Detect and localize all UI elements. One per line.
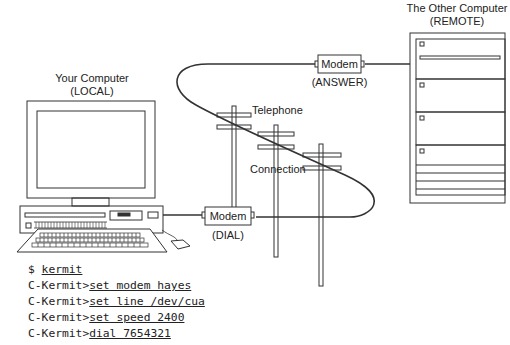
local-computer-subtitle: (LOCAL) xyxy=(70,85,113,97)
terminal-line: C-Kermit>set line /dev/cua xyxy=(28,294,205,310)
telephone-label: Telephone xyxy=(252,104,303,116)
terminal-line: C-Kermit>set modem hayes xyxy=(28,278,205,294)
terminal-line: C-Kermit>set speed 2400 xyxy=(28,310,205,326)
telephone-pole-2 xyxy=(258,125,294,257)
telephone-pole-1 xyxy=(217,106,251,219)
terminal-command: set line /dev/cua xyxy=(89,295,205,308)
remote-computer-title: The Other Computer xyxy=(407,2,508,14)
vent-grille xyxy=(36,222,105,228)
terminal-command: dial 7654321 xyxy=(89,327,171,340)
connection-label: Connection xyxy=(250,163,306,175)
terminal-prompt: C-Kermit> xyxy=(28,327,89,340)
terminal-prompt: $ xyxy=(28,263,42,276)
terminal-prompt: C-Kermit> xyxy=(28,295,89,308)
terminal-prompt: C-Kermit> xyxy=(28,311,89,324)
terminal-session: $ kermit C-Kermit>set modem hayes C-Kerm… xyxy=(28,262,205,342)
modem-remote-mode: (ANSWER) xyxy=(312,76,368,88)
local-computer-title: Your Computer xyxy=(55,72,129,84)
terminal-command: set speed 2400 xyxy=(89,311,184,324)
monitor xyxy=(27,101,155,198)
modem-remote-label: Modem xyxy=(321,58,358,70)
modem-local-label: Modem xyxy=(210,210,247,222)
terminal-command: set modem hayes xyxy=(89,279,191,292)
mouse xyxy=(171,240,190,249)
local-computer xyxy=(17,101,190,252)
labels: Your Computer (LOCAL) The Other Computer… xyxy=(55,2,508,241)
modem-local-mode: (DIAL) xyxy=(212,229,244,241)
terminal-command: kermit xyxy=(42,263,83,276)
terminal-line: C-Kermit>dial 7654321 xyxy=(28,326,205,342)
remote-computer-subtitle: (REMOTE) xyxy=(430,15,484,27)
monitor-screen xyxy=(37,111,145,188)
terminal-prompt: C-Kermit> xyxy=(28,279,89,292)
terminal-line: $ kermit xyxy=(28,262,205,278)
remote-computer-tower xyxy=(410,33,505,203)
